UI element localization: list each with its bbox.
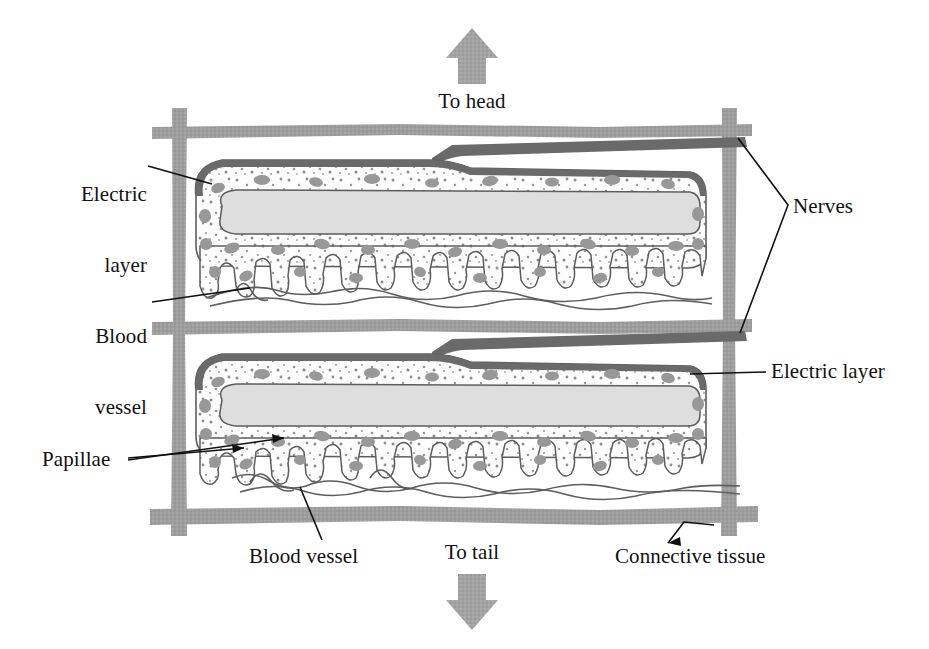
label-blood-vessel-left-line1: Blood	[0, 325, 147, 349]
connective-tissue-bar-top	[152, 124, 752, 139]
label-blood-vessel-left: Blood vessel	[0, 278, 147, 466]
label-blood-vessel-left-line2: vessel	[0, 396, 147, 420]
label-nerves: Nerves	[793, 195, 853, 219]
to-head-arrow	[446, 28, 498, 84]
label-electric-layer-left-line1: Electric	[0, 183, 147, 207]
label-papillae: Papillae	[42, 448, 110, 472]
diagram-canvas: Electric layer Blood vessel Papillae Ner…	[0, 0, 929, 649]
leader-nerves	[738, 138, 788, 333]
upper-electric-organ	[196, 137, 747, 310]
label-blood-vessel-bottom: Blood vessel	[249, 545, 358, 569]
label-to-tail: To tail	[410, 541, 534, 565]
label-electric-layer-left-line2: layer	[0, 254, 147, 278]
label-connective-tissue: Connective tissue	[615, 545, 765, 569]
label-to-head: To head	[410, 90, 534, 114]
connective-tissue-bar-middle	[152, 319, 752, 335]
connective-tissue-bar-left	[171, 108, 187, 536]
electric-core-upper	[220, 190, 700, 234]
lower-electric-organ	[196, 331, 747, 500]
connective-tissue-bar-bottom	[150, 506, 758, 525]
connective-tissue-bar-right	[721, 108, 737, 536]
electric-core-lower	[220, 384, 700, 426]
label-electric-layer-right: Electric layer	[771, 360, 885, 384]
to-tail-arrow	[446, 574, 498, 630]
